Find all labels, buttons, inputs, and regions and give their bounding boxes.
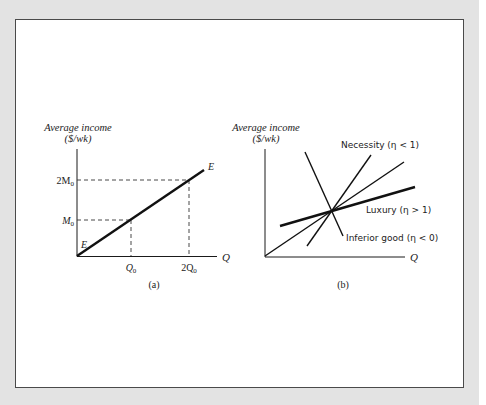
panel-b-y-axis-unit: ($/wk): [253, 133, 280, 145]
curve-label-e-start: E: [80, 239, 87, 250]
inferior-good-curve: [305, 152, 343, 236]
x-tick-q0: Q0: [126, 262, 137, 275]
panel-a-caption: (a): [148, 279, 159, 291]
panel-b: Average income ($/wk) Necessity (η < 1) …: [231, 122, 438, 291]
panel-a-y-axis-unit: ($/wk): [65, 133, 92, 145]
inferior-good-label: Inferior good (η < 0): [346, 233, 438, 243]
panel-b-y-axis-label: Average income: [231, 122, 300, 133]
y-tick-2m0: 2M0: [57, 175, 75, 188]
panel-a: Average income ($/wk) E E 2M0 M0 Q0 2Q0 …: [43, 122, 230, 291]
engel-curve-ee: [77, 170, 204, 256]
x-tick-2q0: 2Q0: [181, 262, 197, 275]
panel-b-caption: (b): [337, 279, 349, 291]
panel-a-y-axis-label: Average income: [43, 122, 112, 133]
luxury-label: Luxury (η > 1): [366, 205, 431, 215]
panel-a-x-axis-label: Q: [222, 251, 230, 263]
curve-label-e-end: E: [207, 161, 214, 172]
panel-b-x-axis-label: Q: [410, 251, 418, 263]
engel-curves-figure: Average income ($/wk) E E 2M0 M0 Q0 2Q0 …: [0, 0, 486, 405]
necessity-label: Necessity (η < 1): [341, 140, 419, 150]
y-tick-m0: M0: [61, 215, 74, 228]
